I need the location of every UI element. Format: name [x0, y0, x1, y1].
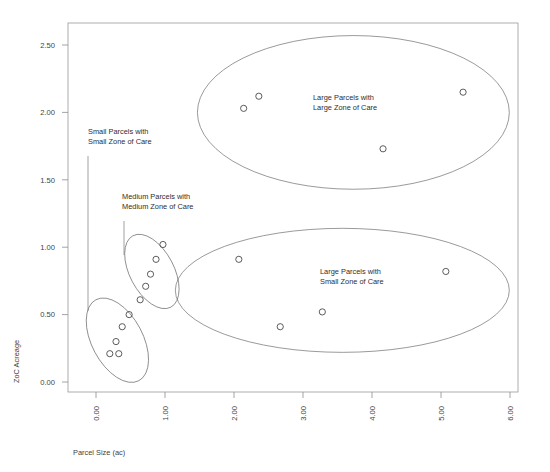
cluster-ellipses	[73, 36, 509, 393]
x-tick-label: 2.00	[230, 406, 239, 421]
small-parcels-annotation-line2: Small Zone of Care	[88, 137, 152, 146]
data-point	[241, 105, 247, 111]
data-point	[116, 351, 122, 357]
x-tick-label: 4.00	[368, 406, 377, 421]
x-tick-label: 5.00	[437, 406, 446, 421]
data-point	[460, 89, 466, 95]
plot-svg: 0.000.501.001.502.002.500.001.002.003.00…	[0, 0, 550, 472]
data-point	[107, 351, 113, 357]
medium-parcels-annotation-line2: Medium Zone of Care	[122, 202, 193, 211]
y-tick-label: 0.50	[40, 310, 55, 319]
large-small-annotation-line1: Large Parcels with	[320, 267, 381, 276]
x-tick-label: 0.00	[92, 406, 101, 421]
cluster-annotations: Small Parcels withSmall Zone of CareMedi…	[88, 93, 384, 311]
y-axis-title: ZoC Acreage	[12, 340, 21, 383]
data-points	[107, 89, 466, 357]
data-point	[256, 93, 262, 99]
data-point	[153, 256, 159, 262]
data-point	[236, 256, 242, 262]
axis-titles: ZoC AcreageParcel Size (ac)	[12, 340, 125, 457]
y-tick-label: 2.00	[40, 108, 55, 117]
large-large-annotation-line2: Large Zone of Care	[313, 103, 377, 112]
axis-tick-labels: 0.000.501.001.502.002.500.001.002.003.00…	[40, 41, 515, 421]
y-tick-label: 1.00	[40, 243, 55, 252]
data-point	[160, 241, 166, 247]
x-axis-title: Parcel Size (ac)	[73, 448, 125, 457]
data-point	[143, 283, 149, 289]
data-point	[113, 338, 119, 344]
x-tick-label: 6.00	[506, 406, 515, 421]
data-point	[319, 309, 325, 315]
y-tick-label: 2.50	[40, 41, 55, 50]
cluster-outline-large-parcels-small-zoc	[175, 228, 509, 352]
x-tick-label: 3.00	[299, 406, 308, 421]
data-point	[277, 324, 283, 330]
x-tick-label: 1.00	[161, 406, 170, 421]
cluster-outline-large-parcels-large-zoc	[197, 36, 509, 190]
small-parcels-annotation-line1: Small Parcels with	[88, 127, 148, 136]
axis-ticks	[62, 45, 510, 398]
data-point	[119, 324, 125, 330]
data-point	[137, 297, 143, 303]
y-tick-label: 0.00	[40, 378, 55, 387]
scatter-chart-figure: 0.000.501.001.502.002.500.001.002.003.00…	[0, 0, 550, 472]
medium-parcels-annotation-line1: Medium Parcels with	[122, 192, 190, 201]
data-point	[147, 271, 153, 277]
data-point	[443, 268, 449, 274]
y-tick-label: 1.50	[40, 176, 55, 185]
large-small-annotation-line2: Small Zone of Care	[320, 277, 384, 286]
large-large-annotation-line1: Large Parcels with	[313, 93, 374, 102]
data-point	[380, 146, 386, 152]
cluster-outline-small-parcels-small-zoc	[73, 288, 161, 393]
